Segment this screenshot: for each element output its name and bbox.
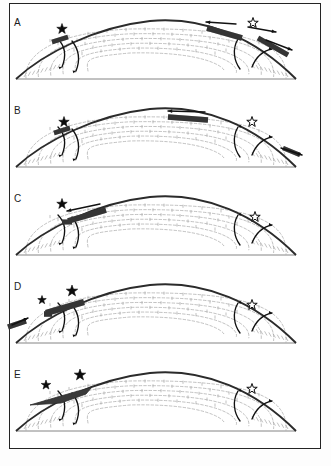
active-marker-star [57,199,67,209]
panel-label-b: B [14,105,21,116]
crest-arrow-left-head [206,20,210,24]
flank-arrow-right-head [287,47,292,51]
active-marker-star [38,296,47,304]
active-marker-star [59,117,69,127]
active-marker-star [41,380,51,389]
panel-b-canvas [0,93,312,182]
panel-label-c: C [14,193,22,204]
active-marker-star [57,24,67,34]
active-marker-star [66,285,77,296]
panel-d-canvas [0,269,312,358]
panel-label-e: E [14,369,21,380]
crest-arrow-right [248,27,276,32]
panel-c: C [0,181,312,270]
panel-label-d: D [14,281,22,292]
figure-root: ABCDE [0,0,331,466]
left-detachment-band-outline [52,37,68,42]
crest-arrow-left [168,111,205,112]
panel-a: A [0,5,312,94]
crest-thrust-band-outline [168,117,208,120]
panel-d: D [0,269,312,358]
active-marker-star [74,369,85,380]
inactive-marker-star [248,18,258,28]
panel-e: E [0,357,312,446]
panel-c-canvas [0,181,312,270]
inactive-marker-star [247,117,257,127]
panel-a-canvas [0,5,312,94]
crest-arrow-left [206,22,236,24]
panel-e-canvas [0,357,312,446]
toe-band-left-outline [8,321,26,327]
panel-label-a: A [14,17,21,28]
panel-b: B [0,93,312,182]
